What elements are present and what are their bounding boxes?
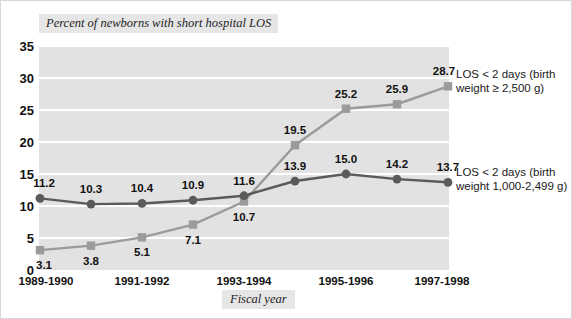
legend-lower-line1: LOS < 2 days (birth xyxy=(456,165,572,179)
data-point-label: 10.3 xyxy=(80,183,102,195)
legend-entry-upper: LOS < 2 days (birth weight ≥ 2,500 g) xyxy=(456,67,572,95)
data-point-marker xyxy=(87,200,96,209)
data-point-marker xyxy=(189,196,198,205)
data-point-label: 14.2 xyxy=(386,158,408,170)
data-point-marker xyxy=(291,141,299,149)
data-point-label: 10.7 xyxy=(233,211,255,223)
data-point-label: 28.7 xyxy=(433,65,455,77)
data-point-label: 25.9 xyxy=(386,83,408,95)
data-point-label: 13.9 xyxy=(284,160,306,172)
data-point-marker xyxy=(393,100,401,108)
data-point-label: 3.8 xyxy=(83,255,99,267)
data-point-label: 3.1 xyxy=(36,259,52,271)
data-point-marker xyxy=(291,177,300,186)
data-point-label: 10.4 xyxy=(131,182,153,194)
data-point-marker xyxy=(342,105,350,113)
data-point-label: 19.5 xyxy=(284,124,306,136)
data-point-marker xyxy=(87,241,95,249)
data-point-marker xyxy=(36,194,45,203)
chart-figure: Percent of newborns with short hospital … xyxy=(0,0,572,319)
data-point-marker xyxy=(240,191,249,200)
data-point-marker xyxy=(444,82,452,90)
data-point-marker xyxy=(138,199,147,208)
data-point-label: 10.9 xyxy=(182,179,204,191)
data-point-label: 25.2 xyxy=(335,88,357,100)
data-point-marker xyxy=(36,246,44,254)
x-axis-title: Fiscal year xyxy=(222,290,295,309)
legend-upper-line2: weight ≥ 2,500 g) xyxy=(456,81,572,95)
data-point-marker xyxy=(189,220,197,228)
legend-entry-lower: LOS < 2 days (birth weight 1,000-2,499 g… xyxy=(456,165,572,193)
legend-lower-line2: weight 1,000-2,499 g) xyxy=(456,179,572,193)
data-point-label: 11.6 xyxy=(233,175,255,187)
data-point-label: 11.2 xyxy=(33,177,55,189)
data-point-marker xyxy=(444,178,453,187)
data-point-label: 5.1 xyxy=(134,246,150,258)
data-point-marker xyxy=(138,233,146,241)
data-point-label: 7.1 xyxy=(185,234,201,246)
data-point-marker xyxy=(393,175,402,184)
data-point-label: 15.0 xyxy=(335,153,357,165)
legend-upper-line1: LOS < 2 days (birth xyxy=(456,67,572,81)
data-point-marker xyxy=(342,170,351,179)
